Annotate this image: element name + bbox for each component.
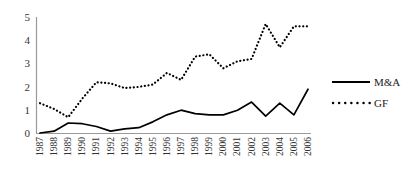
x-tick-label-2002: 2002 <box>247 137 257 156</box>
x-tick-label-1987: 1987 <box>35 137 45 156</box>
x-tick-label-1988: 1988 <box>49 137 59 156</box>
x-tick-label-1995: 1995 <box>148 137 158 156</box>
x-tick-label-1994: 1994 <box>134 137 144 156</box>
x-tick-label-2000: 2000 <box>218 137 228 156</box>
x-tick-label-1992: 1992 <box>106 137 116 156</box>
x-tick-label-2006: 2006 <box>303 137 313 156</box>
x-tick-label-1993: 1993 <box>120 137 130 156</box>
x-tick-label-1991: 1991 <box>91 137 101 156</box>
legend-label-gf: GF <box>374 97 388 109</box>
x-tick-label-1989: 1989 <box>63 137 73 156</box>
series-line-gf <box>40 24 308 117</box>
legend-label-ma: M&A <box>374 76 400 88</box>
x-tick-label-1998: 1998 <box>190 137 200 156</box>
x-tick-label-2001: 2001 <box>232 137 242 156</box>
legend-swatches <box>330 60 417 120</box>
series-line-ma <box>40 89 308 133</box>
x-tick-label-1990: 1990 <box>77 137 87 156</box>
x-tick-label-1996: 1996 <box>162 137 172 156</box>
x-tick-label-1997: 1997 <box>176 137 186 156</box>
x-tick-label-2004: 2004 <box>275 137 285 156</box>
chart-container: 5 4 3 2 1 0 1987198819891990199119921993… <box>0 0 417 182</box>
x-tick-label-1999: 1999 <box>204 137 214 156</box>
x-tick-label-2003: 2003 <box>261 137 271 156</box>
x-tick-label-2005: 2005 <box>289 137 299 156</box>
